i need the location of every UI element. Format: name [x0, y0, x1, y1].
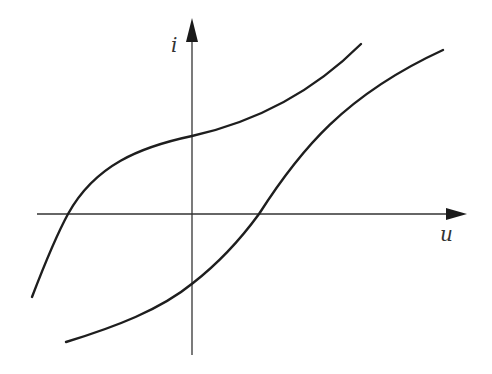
- vertical-axis-label: i: [171, 33, 177, 57]
- lower-curve: [66, 50, 443, 342]
- upper-curve: [32, 44, 361, 297]
- horizontal-axis-label: u: [440, 222, 453, 246]
- horizontal-axis-arrow-icon: [446, 208, 467, 220]
- iu-characteristic-diagram: i u: [0, 0, 492, 374]
- vertical-axis-arrow-icon: [186, 18, 198, 42]
